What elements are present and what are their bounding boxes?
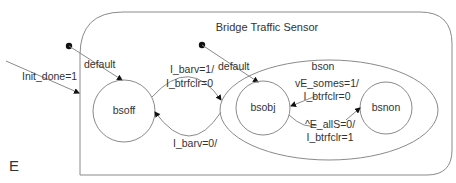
corner-label-e: E (9, 157, 19, 174)
transition-bson-to-bsoff-label: I_barv=0/ (173, 137, 217, 149)
transition-bson-to-bsoff[interactable] (155, 112, 221, 136)
default-label-inner: default (218, 60, 250, 72)
statechart-diagram: Bridge Traffic Sensor Init_done=1 defaul… (0, 0, 456, 183)
state-bsobj-label: bsobj (250, 101, 275, 113)
superstate-bson-label: bson (312, 60, 335, 72)
transition-vE-somes-label-1: vE_somes=1/ (295, 77, 359, 89)
transition-vE-somes-label-2: I_btrfclr=0 (304, 90, 351, 102)
outer-state-title: Bridge Traffic Sensor (216, 21, 319, 33)
transition-allS-label-2: I_btrfclr=1 (307, 131, 354, 143)
default-label-outer: default (84, 58, 116, 70)
state-bsoff-label: bsoff (113, 104, 136, 116)
state-bsnon-label: bsnon (372, 101, 401, 113)
transition-bsoff-to-bson-label-2: I_btrfclr=0 (166, 77, 213, 89)
transition-bsoff-to-bson-label-1: I_barv=1/ (170, 63, 214, 75)
init-entry-label: Init_done=1 (22, 70, 77, 82)
transition-allS-label-1: ^E_allS=0/ (305, 118, 355, 130)
